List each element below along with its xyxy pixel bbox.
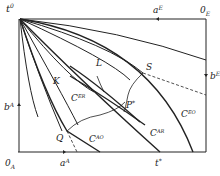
label-K: K (52, 76, 61, 86)
label-a-e: aE (153, 4, 163, 15)
curve-C-AO (67, 102, 125, 131)
arrow-right-b-e (204, 74, 208, 77)
label-0-a: 0A (5, 158, 16, 170)
label-P-star: P* (125, 99, 135, 110)
curve-L-segment (97, 76, 104, 92)
label-b-e: bE (210, 70, 220, 81)
label-b-a: bA (4, 101, 15, 112)
label-L: L (95, 58, 102, 68)
label-C-EO: CEO (181, 109, 196, 119)
label-Q: Q (56, 133, 64, 143)
ray-5 (20, 19, 130, 80)
label-C-ER: CER (71, 93, 86, 103)
edgeworth-box-diagram: t0 aE 0E bE bA 0A aA t* K L S Q P* CER C… (0, 0, 220, 176)
label-C-AO: CAO (89, 134, 104, 144)
arrow-left-b-a (17, 103, 21, 106)
label-0-e: 0E (200, 5, 211, 17)
label-t-star: t* (155, 157, 162, 168)
arrow-top-a-e (156, 17, 159, 21)
label-C-AR: CAR (150, 128, 165, 138)
label-S: S (146, 62, 152, 72)
label-a-a: aA (60, 157, 70, 168)
curve-C-EO (20, 19, 193, 152)
label-t0: t0 (6, 2, 14, 14)
arrow-bottom-a-a (63, 150, 66, 154)
